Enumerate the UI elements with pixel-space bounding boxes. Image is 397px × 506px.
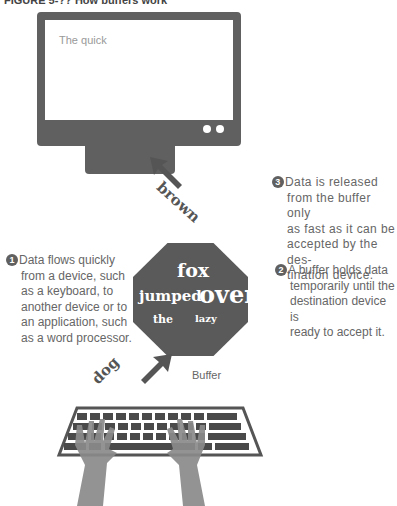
step-number-badge: 3 [272,176,284,188]
monitor-bezel [45,120,233,138]
step-number-badge: 2 [275,264,287,276]
buffer-label: Buffer [192,369,221,381]
buffer-word: lazy [195,313,217,324]
monitor: The quick [37,12,241,146]
arrow-up-right-icon [140,352,174,386]
indicator-dot-icon [216,125,224,133]
figure-caption: FIGURE 5-?? How buffers work [4,0,167,6]
step-number-badge: 1 [6,254,18,266]
step-2-description: 2A buffer holds data temporarily until t… [275,263,395,341]
screen-text: The quick [59,34,107,46]
buffer-word: over [199,280,257,309]
buffer-word: fox [177,259,209,281]
arrow-label-dog: dog [88,353,123,388]
indicator-dot-icon [203,125,211,133]
step-1-description: 1Data flows quickly from a device, such … [6,253,156,346]
keyboard-with-hands-illustration [55,405,265,506]
buffer-word: the [153,313,173,326]
